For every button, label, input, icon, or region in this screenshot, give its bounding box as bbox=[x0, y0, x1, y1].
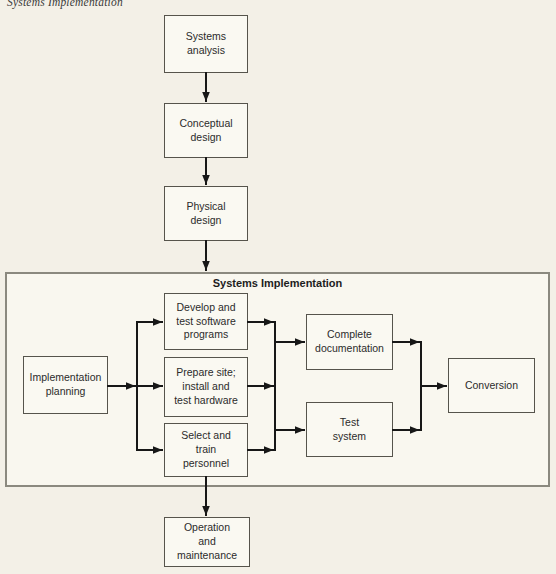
node-conceptual-design-label: Conceptual design bbox=[179, 117, 232, 145]
container-title: Systems Implementation bbox=[7, 277, 548, 289]
node-operation-maintenance: Operation and maintenance bbox=[164, 517, 250, 567]
node-test-system: Test system bbox=[306, 402, 393, 457]
node-implementation-planning: Implementation planning bbox=[23, 356, 108, 414]
node-test-system-label: Test system bbox=[333, 416, 366, 444]
node-develop-software-label: Develop and test software programs bbox=[176, 301, 236, 343]
node-prepare-site: Prepare site; install and test hardware bbox=[164, 357, 248, 417]
node-develop-software: Develop and test software programs bbox=[164, 293, 248, 350]
node-conversion-label: Conversion bbox=[465, 379, 518, 393]
page-header: Systems Implementation bbox=[7, 0, 123, 8]
node-operation-maintenance-label: Operation and maintenance bbox=[177, 521, 237, 563]
node-systems-analysis-label: Systems analysis bbox=[186, 30, 226, 58]
node-select-personnel-label: Select and train personnel bbox=[181, 429, 231, 471]
node-complete-documentation-label: Complete documentation bbox=[315, 328, 384, 356]
node-complete-documentation: Complete documentation bbox=[306, 314, 393, 370]
diagram-canvas: Systems Implementation Systems Implement… bbox=[0, 0, 556, 574]
node-conversion: Conversion bbox=[448, 358, 535, 413]
node-conceptual-design: Conceptual design bbox=[164, 103, 248, 158]
node-prepare-site-label: Prepare site; install and test hardware bbox=[174, 366, 238, 408]
node-implementation-planning-label: Implementation planning bbox=[30, 371, 102, 399]
node-select-personnel: Select and train personnel bbox=[164, 423, 248, 477]
node-physical-design: Physical design bbox=[164, 186, 248, 241]
node-systems-analysis: Systems analysis bbox=[164, 15, 248, 73]
node-physical-design-label: Physical design bbox=[186, 200, 225, 228]
